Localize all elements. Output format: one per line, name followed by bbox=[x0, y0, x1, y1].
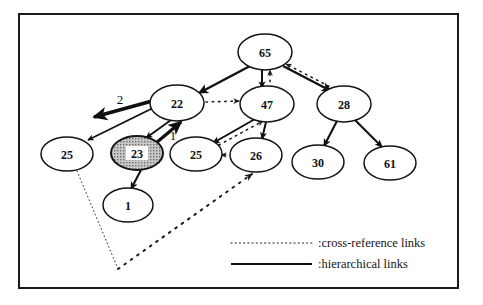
node-30[interactable]: 30 bbox=[292, 145, 344, 179]
node-25[interactable]: 25 bbox=[170, 137, 222, 171]
edge-weight-label-2: 2 bbox=[117, 92, 124, 107]
node-label: 28 bbox=[338, 98, 350, 112]
node-label: 65 bbox=[259, 46, 271, 60]
node-label: 47 bbox=[261, 98, 273, 112]
node-65[interactable]: 65 bbox=[238, 34, 292, 70]
node-23-highlighted[interactable]: 23 bbox=[111, 136, 163, 170]
node-label: 30 bbox=[312, 156, 324, 170]
node-61[interactable]: 61 bbox=[364, 146, 416, 180]
node-label: 26 bbox=[250, 149, 262, 163]
edge-weight-label-1: 1 bbox=[170, 128, 177, 143]
node-label: 23 bbox=[131, 147, 143, 161]
graph-diagram: 652247282523252630611 21 :cross-referenc… bbox=[0, 0, 483, 305]
node-label: 22 bbox=[171, 97, 183, 111]
node-25[interactable]: 25 bbox=[41, 137, 93, 171]
node-label: 61 bbox=[384, 157, 396, 171]
node-1[interactable]: 1 bbox=[103, 188, 153, 222]
figure-root: 652247282523252630611 21 :cross-referenc… bbox=[0, 0, 483, 305]
node-28[interactable]: 28 bbox=[317, 86, 371, 122]
legend-hier-text: :hierarchical links bbox=[318, 257, 408, 271]
node-47[interactable]: 47 bbox=[240, 86, 294, 122]
node-label: 1 bbox=[125, 199, 131, 213]
node-label: 25 bbox=[190, 148, 202, 162]
node-26[interactable]: 26 bbox=[230, 138, 282, 172]
node-22[interactable]: 22 bbox=[150, 85, 204, 121]
legend-cross-text: :cross-reference links bbox=[318, 236, 425, 250]
node-label: 25 bbox=[61, 148, 73, 162]
